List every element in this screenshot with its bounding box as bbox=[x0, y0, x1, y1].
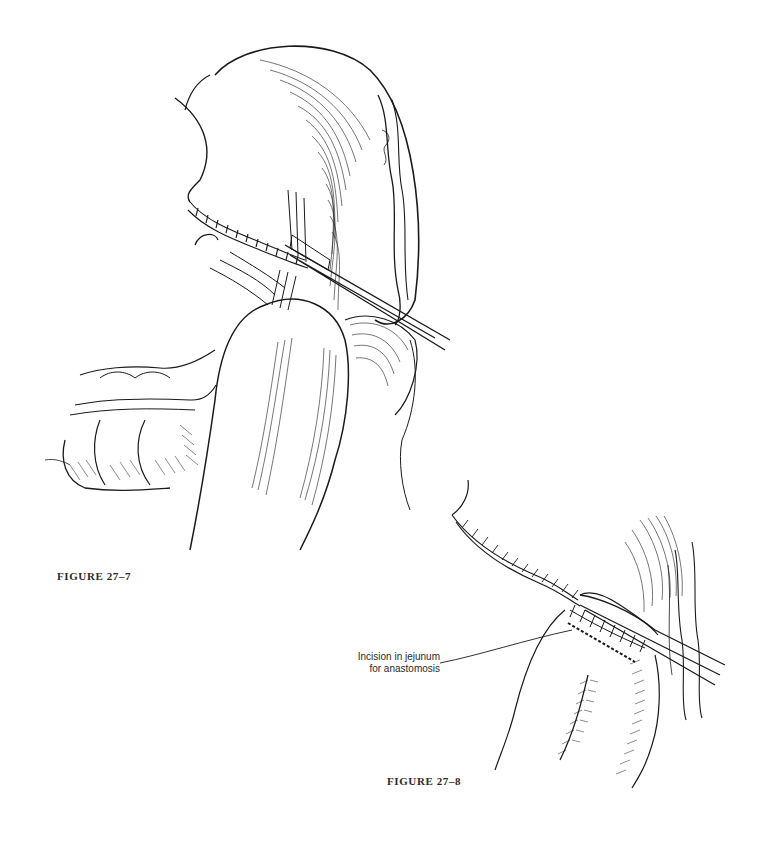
figure-27-7-illustration bbox=[30, 20, 460, 565]
figure-27-7-caption: FIGURE 27–7 bbox=[57, 570, 131, 582]
surgical-illustration-stomach bbox=[30, 20, 460, 565]
incision-annotation: Incision in jejunum for anastomosis bbox=[340, 651, 440, 675]
figure-27-8-caption: FIGURE 27–8 bbox=[387, 775, 461, 787]
figure-27-8-illustration bbox=[440, 470, 764, 790]
surgical-illustration-jejunum-incision bbox=[440, 470, 764, 790]
annotation-line-1: Incision in jejunum bbox=[340, 651, 440, 663]
annotation-line-2: for anastomosis bbox=[340, 663, 440, 675]
